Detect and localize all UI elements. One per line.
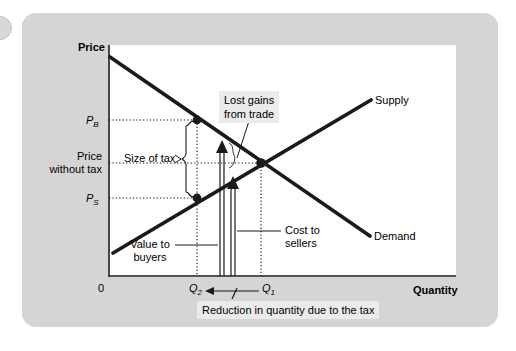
x-axis-label: Quantity: [413, 284, 458, 297]
demand-curve-label: Demand: [374, 230, 416, 243]
lost-gains-callout: Lost gains from trade: [219, 91, 279, 123]
tick-label-ps-sub: S: [93, 198, 98, 207]
lost-gains-callout-line2: from trade: [224, 107, 274, 121]
tick-label-q2-text: Q: [189, 282, 198, 294]
size-of-tax-label: Size of tax: [124, 152, 175, 165]
tick-label-pb-sub: B: [93, 120, 98, 129]
tick-label-ps: PS: [86, 192, 99, 209]
origin-label: 0: [98, 282, 104, 295]
cost-to-sellers-line2: sellers: [285, 237, 339, 250]
lost-gains-callout-line1: Lost gains: [224, 93, 274, 107]
tick-label-q1-sub: 1: [271, 288, 275, 297]
tick-label-q2-sub: 2: [198, 288, 202, 297]
tick-label-q1: Q1: [262, 282, 275, 299]
cost-to-sellers-line1: Cost to: [285, 224, 339, 237]
figure-screen: Price Quantity 0 PB Price without tax PS…: [0, 0, 516, 351]
tick-label-price-without-tax: Price without tax: [26, 150, 102, 176]
supply-curve-label: Supply: [375, 94, 409, 107]
tick-label-price-without-tax-line2: without tax: [26, 163, 102, 176]
value-to-buyers-line2: buyers: [126, 251, 174, 264]
tick-label-q2: Q2: [189, 282, 202, 299]
value-to-buyers-label: Value to buyers: [126, 238, 174, 264]
tick-label-q1-text: Q: [262, 282, 271, 294]
tick-label-price-without-tax-line1: Price: [26, 150, 102, 163]
tick-label-pb: PB: [86, 114, 99, 131]
cost-to-sellers-label: Cost to sellers: [285, 224, 339, 250]
y-axis-label: Price: [78, 41, 105, 54]
edge-decoration-circle: [0, 16, 12, 40]
reduction-caption: Reduction in quantity due to the tax: [197, 301, 379, 319]
value-to-buyers-line1: Value to: [126, 238, 174, 251]
